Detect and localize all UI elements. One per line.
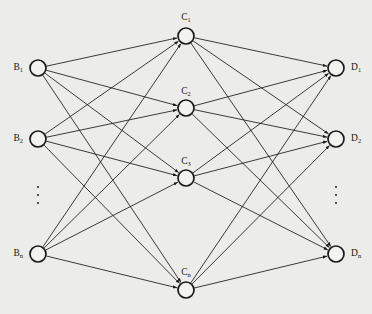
edge-C2-to-D1 [194, 70, 327, 105]
node-label-b2: B2 [13, 133, 23, 144]
node-cn[interactable] [178, 282, 194, 298]
ellipsis-dot [37, 194, 39, 196]
edge-Cn-to-Dn [194, 256, 327, 288]
node-c3[interactable] [178, 170, 194, 186]
node-d1[interactable] [328, 60, 344, 76]
vertical-ellipsis-b [37, 186, 39, 204]
node-label-c1: C1 [181, 12, 191, 23]
figure-container: B1B2BnC1C2C3CnD1D2Dn [0, 0, 372, 314]
node-label-d2: D2 [351, 133, 361, 144]
edge-C3-to-Dn [194, 182, 328, 250]
node-label-dn: Dn [351, 248, 362, 259]
edge-C1-to-D1 [194, 38, 327, 66]
ellipsis-dot [335, 186, 337, 188]
node-label-cn: Cn [181, 267, 191, 278]
edge-C2-to-Dn [192, 114, 329, 248]
node-bn[interactable] [30, 246, 46, 262]
edge-C3-to-D2 [194, 141, 327, 176]
node-c1[interactable] [178, 28, 194, 44]
node-dn[interactable] [328, 246, 344, 262]
edge-Bn-to-C3 [46, 182, 178, 250]
node-label-c2: C2 [181, 86, 191, 97]
ellipsis-dot [37, 186, 39, 188]
node-label-c3: C3 [181, 156, 191, 167]
edge-B2-to-C2 [46, 110, 177, 137]
node-b2[interactable] [30, 131, 46, 147]
edge-B2-to-C3 [46, 141, 177, 175]
node-b1[interactable] [30, 60, 46, 76]
node-label-d1: D1 [351, 62, 361, 73]
network-diagram: B1B2BnC1C2C3CnD1D2Dn [0, 0, 372, 314]
ellipsis-dot [335, 202, 337, 204]
labels-group: B1B2BnC1C2C3CnD1D2Dn [13, 12, 361, 278]
node-label-b1: B1 [13, 62, 23, 73]
ellipsis-dot [37, 202, 39, 204]
edge-B1-to-Cn [43, 75, 181, 282]
edge-B2-to-Cn [44, 145, 180, 283]
node-c2[interactable] [178, 100, 194, 116]
node-d2[interactable] [328, 131, 344, 147]
edge-B1-to-C1 [46, 38, 177, 66]
ellipsis-dot [335, 194, 337, 196]
vertical-ellipsis-d [335, 186, 337, 204]
node-label-bn: Bn [13, 248, 23, 259]
edge-C1-to-D2 [193, 41, 328, 134]
edge-Cn-to-D1 [191, 76, 331, 283]
edge-Bn-to-C2 [44, 114, 179, 248]
